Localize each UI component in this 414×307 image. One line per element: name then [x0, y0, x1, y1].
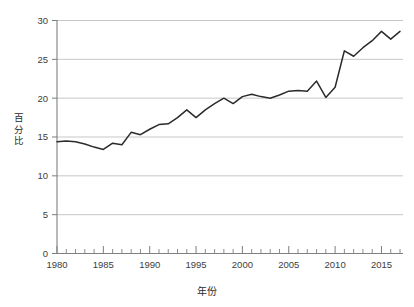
- y-tick-label-0: 0: [43, 248, 48, 259]
- x-axis-tick-labels-group: 19801985199019952000200520102015: [46, 259, 392, 270]
- y-tick-label-25: 25: [37, 54, 48, 65]
- y-axis-title: 百 分 比: [12, 112, 26, 147]
- x-axis-title: 年份: [0, 283, 414, 298]
- chart-plot-area: 051015202530 198019851990199520002005201…: [0, 0, 414, 307]
- y-axis-title-char-1: 百: [12, 112, 26, 124]
- x-tick-label-2000: 2000: [232, 259, 253, 270]
- y-axis-ticks-group: [52, 21, 57, 254]
- y-tick-label-20: 20: [37, 93, 48, 104]
- y-tick-label-10: 10: [37, 170, 48, 181]
- y-tick-label-5: 5: [43, 209, 48, 220]
- y-axis-title-char-2: 分: [12, 124, 26, 136]
- x-axis-major-ticks-group: [57, 246, 381, 254]
- x-tick-label-2005: 2005: [278, 259, 299, 270]
- x-tick-label-2010: 2010: [325, 259, 346, 270]
- data-series-line: [57, 31, 400, 149]
- x-tick-label-1990: 1990: [139, 259, 160, 270]
- y-axis-title-char-3: 比: [12, 135, 26, 147]
- y-tick-label-30: 30: [37, 15, 48, 26]
- x-tick-label-1985: 1985: [93, 259, 114, 270]
- x-tick-label-1980: 1980: [46, 259, 67, 270]
- gridlines-group: [57, 21, 403, 215]
- y-axis-tick-labels-group: 051015202530: [37, 15, 48, 259]
- x-axis-minor-ticks-group: [66, 249, 400, 254]
- line-chart-figure: 051015202530 198019851990199520002005201…: [0, 0, 414, 307]
- x-tick-label-2015: 2015: [371, 259, 392, 270]
- x-tick-label-1995: 1995: [185, 259, 206, 270]
- y-tick-label-15: 15: [37, 131, 48, 142]
